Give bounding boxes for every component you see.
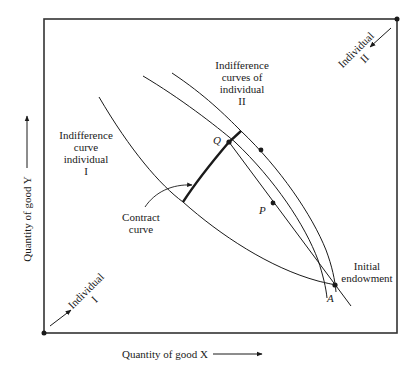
origin-individual-2-dot: [395, 17, 400, 22]
label-indifference-curves-individual-2: Indifference curves of individual II: [212, 59, 272, 107]
point-on-outer-curve-dot: [259, 148, 264, 153]
contract-curve: [183, 131, 241, 202]
origin-individual-1-dot: [42, 331, 47, 336]
point-p-dot: [271, 201, 276, 206]
label-indifference-curve-individual-1: Indifference curve individual I: [56, 129, 116, 177]
cc-line1: Contract: [116, 211, 166, 223]
ic1-line2: curve: [56, 141, 116, 153]
ic2-line2: curves of: [212, 71, 272, 83]
ie-line1: Initial: [337, 260, 397, 272]
indifference-curve-individual-2-inner: [143, 76, 327, 298]
ic1-line1: Indifference: [56, 129, 116, 141]
ic1-line3: individual: [56, 153, 116, 165]
ic2-line1: Indifference: [212, 59, 272, 71]
cc-line2: curve: [116, 223, 166, 235]
indifference-curve-individual-1: [99, 97, 336, 285]
ie-line2: endowment: [337, 272, 397, 284]
ic2-line3: individual: [212, 83, 272, 95]
x-axis-label: Quantity of good X: [122, 348, 208, 360]
label-initial-endowment: Initial endowment: [337, 260, 397, 284]
label-point-q: Q: [213, 134, 221, 146]
ic1-line4: I: [56, 165, 116, 177]
label-point-p: P: [259, 204, 266, 216]
edgeworth-box-diagram: Quantity of good Y Quantity of good X In…: [0, 0, 418, 382]
price-line: [229, 142, 351, 306]
ic2-line4: II: [212, 95, 272, 107]
point-q-dot: [226, 139, 231, 144]
y-axis-label: Quantity of good Y: [21, 159, 33, 279]
label-point-a: A: [327, 292, 334, 304]
label-contract-curve: Contract curve: [116, 211, 166, 235]
